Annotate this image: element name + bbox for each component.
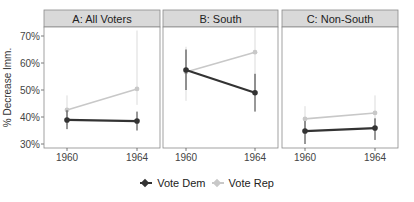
x-tick-label: 1960: [175, 152, 198, 163]
facet-title: C: Non-South: [307, 13, 374, 25]
legend-dem-label: Vote Dem: [157, 177, 205, 189]
facet-panel: [44, 27, 160, 148]
facet-title: A: All Voters: [72, 13, 132, 25]
faceted-line-chart: % Decrease Imm.30%40%50%60%70%A: All Vot…: [0, 0, 414, 176]
x-tick-label: 1964: [126, 152, 149, 163]
y-tick-label: 50%: [20, 85, 40, 96]
facet-panel: [163, 27, 278, 148]
x-tick-label: 1960: [294, 152, 317, 163]
y-tick-label: 60%: [20, 58, 40, 69]
legend: Vote Dem Vote Rep: [0, 176, 414, 189]
legend-rep-swatch-icon: [212, 179, 224, 187]
facet-title: B: South: [199, 13, 241, 25]
x-tick-label: 1964: [244, 152, 267, 163]
x-tick-label: 1964: [364, 152, 387, 163]
y-tick-label: 30%: [20, 139, 40, 150]
y-tick-label: 40%: [20, 112, 40, 123]
legend-rep-label: Vote Rep: [229, 177, 274, 189]
y-tick-label: 70%: [20, 31, 40, 42]
x-tick-label: 1960: [56, 152, 79, 163]
y-axis-label: % Decrease Imm.: [2, 48, 13, 127]
legend-dem-swatch-icon: [140, 179, 152, 187]
